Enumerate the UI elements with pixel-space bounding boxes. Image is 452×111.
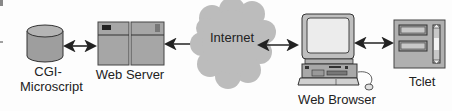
cgi-label-line2: Microscript bbox=[20, 79, 76, 94]
desktop-computer-icon bbox=[298, 14, 373, 90]
server-icon bbox=[98, 22, 164, 65]
database-cylinder-icon bbox=[27, 25, 63, 62]
tclet-label: Tclet bbox=[402, 74, 442, 89]
cgi-label-line1: CGI- bbox=[20, 64, 76, 79]
internet-label: Internet bbox=[200, 30, 264, 45]
browser-label: Web Browser bbox=[295, 92, 379, 107]
cgi-label: CGI- Microscript bbox=[20, 64, 76, 94]
diagram-canvas bbox=[0, 0, 452, 111]
applet-window-icon bbox=[394, 20, 445, 68]
edge-fragment bbox=[0, 0, 3, 42]
webserver-label: Web Server bbox=[92, 67, 168, 82]
